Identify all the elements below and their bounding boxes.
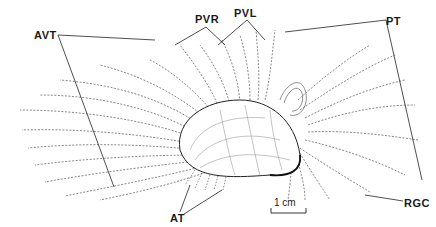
label-pvr: PVR (195, 13, 219, 25)
label-avt: AVT (34, 29, 57, 41)
shell-tentacle-illustration (0, 0, 436, 227)
label-at: AT (170, 212, 185, 224)
tentacles-top (200, 30, 275, 105)
label-pt: PT (386, 15, 401, 27)
diagram-stage: AVT PVR PVL PT RGC AT 1 cm (0, 0, 436, 227)
shell (179, 100, 300, 177)
tentacles-right (288, 45, 418, 200)
label-rgc: RGC (404, 197, 430, 209)
scale-bar (271, 208, 306, 213)
mantle-folds (280, 83, 306, 116)
scale-bar-label: 1 cm (274, 197, 296, 208)
label-pvl: PVL (234, 7, 257, 19)
